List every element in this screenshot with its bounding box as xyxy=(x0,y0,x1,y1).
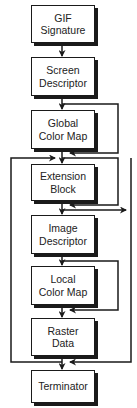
box-raster-data: Raster Data xyxy=(31,318,95,356)
box-label-line: Descriptor xyxy=(39,235,87,248)
box-extension-block: Extension Block xyxy=(31,164,95,201)
box-label-line: Signature xyxy=(41,24,86,37)
box-label-line: Block xyxy=(50,183,76,196)
box-global-color-map: Global Color Map xyxy=(31,110,95,149)
box-image-descriptor: Image Descriptor xyxy=(31,215,95,254)
box-label-line: Descriptor xyxy=(39,77,87,90)
box-label-line: Color Map xyxy=(39,130,87,143)
box-label-line: Color Map xyxy=(39,286,87,299)
box-label-line: Data xyxy=(52,337,74,350)
box-label-line: Extension xyxy=(40,170,86,183)
box-gif-signature: GIF Signature xyxy=(31,5,95,43)
box-label-line: Terminator xyxy=(38,380,88,393)
box-screen-descriptor: Screen Descriptor xyxy=(31,57,95,96)
box-label-line: GIF xyxy=(54,12,72,25)
box-label-line: Screen xyxy=(46,64,79,77)
box-label-line: Raster xyxy=(48,325,79,338)
box-label-line: Image xyxy=(48,222,77,235)
box-label-line: Local xyxy=(50,273,75,286)
box-terminator: Terminator xyxy=(31,370,95,403)
box-local-color-map: Local Color Map xyxy=(31,266,95,305)
box-label-line: Global xyxy=(48,117,78,130)
